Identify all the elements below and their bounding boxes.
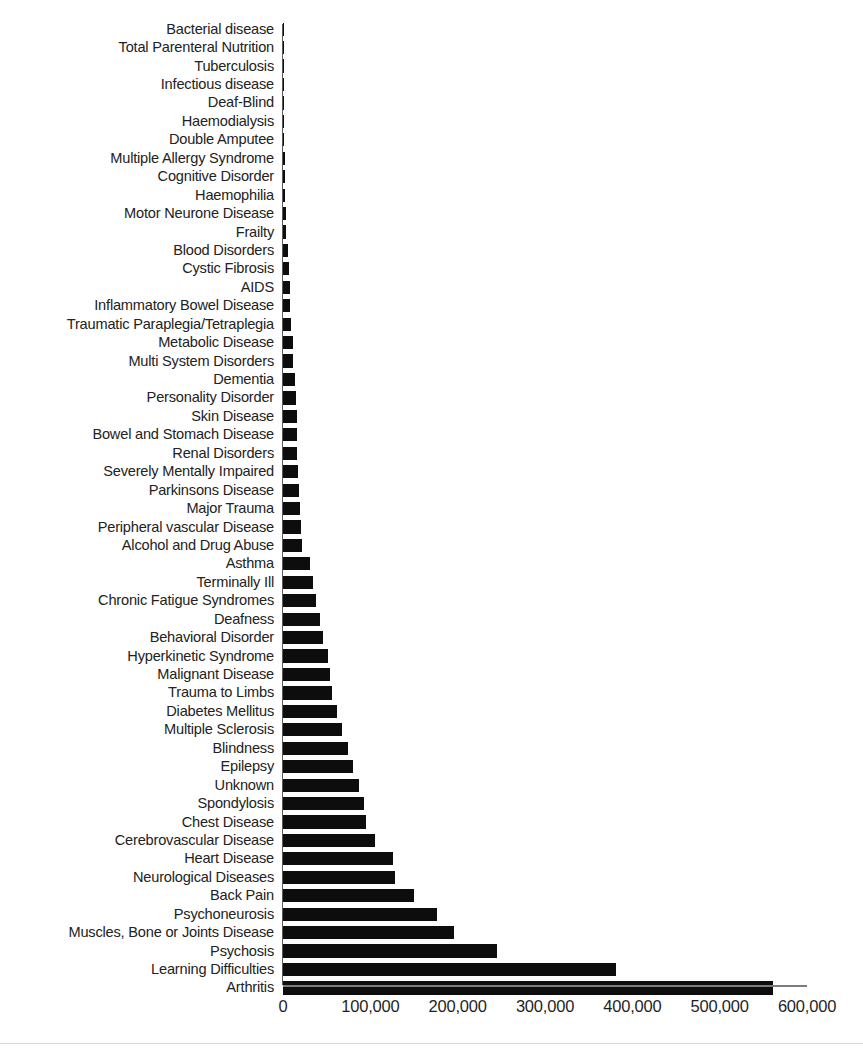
category-label: AIDS [0,280,278,295]
category-label: Dementia [0,372,278,387]
bar-track [283,905,808,923]
category-label: Alcohol and Drug Abuse [0,538,278,553]
bar [283,23,284,36]
bar-row: Spondylosis [0,794,863,812]
category-label: Back Pain [0,888,278,903]
bar-row: Deaf-Blind [0,94,863,112]
bar-track [283,389,808,407]
bar-row: Behavioral Disorder [0,628,863,646]
bar [283,594,316,607]
category-label: Heart Disease [0,851,278,866]
category-label: Motor Neurone Disease [0,206,278,221]
category-label: Malignant Disease [0,667,278,682]
bar-row: Chest Disease [0,813,863,831]
x-tick-label: 400,000 [603,995,661,1017]
category-label: Infectious disease [0,77,278,92]
bar-track [283,499,808,517]
category-label: Cerebrovascular Disease [0,833,278,848]
bar-row: Severely Mentally Impaired [0,463,863,481]
bar [283,115,284,128]
bar-track [283,407,808,425]
category-label: Behavioral Disorder [0,630,278,645]
bar-row: Muscles, Bone or Joints Disease [0,923,863,941]
category-label: Multiple Sclerosis [0,722,278,737]
bar [283,631,323,644]
bar-track [283,739,808,757]
bar [283,428,297,441]
bar-track [283,241,808,259]
bar-track [283,702,808,720]
bar-row: AIDS [0,278,863,296]
bar-row: Cystic Fibrosis [0,260,863,278]
bar-row: Tuberculosis [0,57,863,75]
bar [283,760,353,773]
bar [283,520,301,533]
x-tick-label: 300,000 [516,995,574,1017]
category-label: Tuberculosis [0,59,278,74]
bar-row: Personality Disorder [0,389,863,407]
bar-track [283,942,808,960]
bar-rows: Bacterial diseaseTotal Parenteral Nutrit… [0,20,863,997]
bar-row: Bowel and Stomach Disease [0,426,863,444]
category-label: Major Trauma [0,501,278,516]
bar-track [283,149,808,167]
category-label: Epilepsy [0,759,278,774]
bar-row: Renal Disorders [0,444,863,462]
bar-track [283,315,808,333]
bar-row: Blood Disorders [0,241,863,259]
bar-row: Deafness [0,610,863,628]
bar-row: Psychosis [0,942,863,960]
x-axis-line [283,985,807,987]
category-label: Bowel and Stomach Disease [0,427,278,442]
bar [283,465,298,478]
bar-track [283,278,808,296]
bar [283,686,332,699]
category-label: Deaf-Blind [0,95,278,110]
bar-track [283,223,808,241]
bar-row: Motor Neurone Disease [0,204,863,222]
bar-row: Haemophilia [0,186,863,204]
bar [283,557,310,570]
bar [283,889,414,902]
category-label: Deafness [0,612,278,627]
bar [283,447,297,460]
bar-row: Peripheral vascular Disease [0,518,863,536]
category-label: Double Amputee [0,132,278,147]
bar-row: Asthma [0,555,863,573]
category-label: Total Parenteral Nutrition [0,40,278,55]
category-label: Terminally Ill [0,575,278,590]
bar-track [283,813,808,831]
bar-track [283,370,808,388]
category-label: Diabetes Mellitus [0,704,278,719]
bar-track [283,260,808,278]
bar-row: Malignant Disease [0,665,863,683]
category-label: Skin Disease [0,409,278,424]
bar-track [283,204,808,222]
bar [283,797,364,810]
bar-row: Learning Difficulties [0,960,863,978]
category-label: Learning Difficulties [0,962,278,977]
bar-track [283,518,808,536]
bar-track [283,297,808,315]
x-tick-label: 500,000 [691,995,749,1017]
bar-track [283,333,808,351]
bar-track [283,555,808,573]
bar-track [283,850,808,868]
bar [283,779,359,792]
bar [283,318,291,331]
bar-track [283,573,808,591]
bar [283,152,285,165]
bar-row: Heart Disease [0,850,863,868]
category-label: Frailty [0,225,278,240]
bar [283,484,299,497]
bar [283,41,284,54]
bar [283,133,284,146]
bar-row: Chronic Fatigue Syndromes [0,592,863,610]
bar-row: Double Amputee [0,131,863,149]
bar-row: Infectious disease [0,75,863,93]
category-label: Traumatic Paraplegia/Tetraplegia [0,317,278,332]
bar-row: Multiple Sclerosis [0,721,863,739]
bar-track [283,444,808,462]
category-label: Bacterial disease [0,22,278,37]
bar-track [283,721,808,739]
